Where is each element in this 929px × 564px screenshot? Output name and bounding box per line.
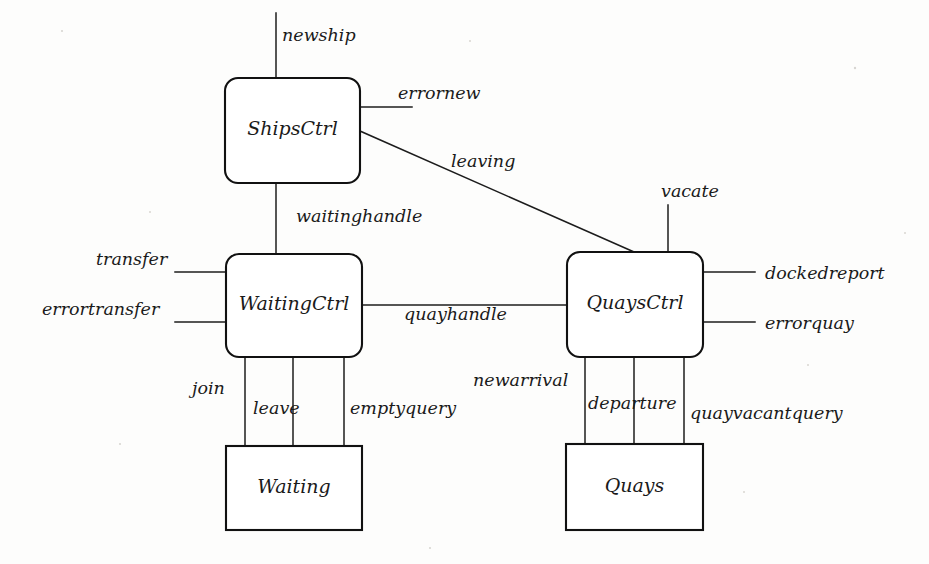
connection-newarrival-label: newarrival [473,370,568,390]
box-quaysctrl-label: QuaysCtrl [587,291,684,313]
connection-dockedreport-label: dockedreport [765,263,886,283]
box-waiting[interactable]: Waiting [226,446,362,530]
box-waiting-label: Waiting [257,475,330,497]
connection-leave-label: leave [253,398,300,418]
connection-emptyquery-label: emptyquery [350,398,457,418]
box-shipsctrl-label: ShipsCtrl [247,117,338,139]
connection-quayhandle-label: quayhandle [404,304,507,324]
box-quaysctrl[interactable]: QuaysCtrl [567,252,703,357]
box-shipsctrl[interactable]: ShipsCtrl [225,78,360,183]
box-waitingctrl[interactable]: WaitingCtrl [226,254,362,357]
connection-vacate-label: vacate [661,181,719,201]
box-quays[interactable]: Quays [566,444,703,530]
connection-transfer-label: transfer [96,249,169,269]
connection-errornew-label: errornew [398,83,481,103]
connection-leaving-line [360,131,634,252]
connection-join-label: join [188,378,225,398]
connection-departure-label: departure [588,393,677,413]
connection-quayvacantquery-label: quayvacantquery [690,403,844,423]
scan-noise [61,30,906,549]
connection-newship-label: newship [282,25,356,45]
box-quays-label: Quays [605,474,665,496]
diagram-canvas: ShipsCtrl WaitingCtrl QuaysCtrl Waiting … [0,0,929,564]
connection-errortransfer-label: errortransfer [42,299,161,319]
block-diagram-svg: ShipsCtrl WaitingCtrl QuaysCtrl Waiting … [0,0,929,564]
connection-leaving-label: leaving [451,151,515,171]
connection-errorquay-label: errorquay [765,313,855,333]
connection-waitinghandle-label: waitinghandle [296,206,422,226]
box-waitingctrl-label: WaitingCtrl [239,292,350,314]
